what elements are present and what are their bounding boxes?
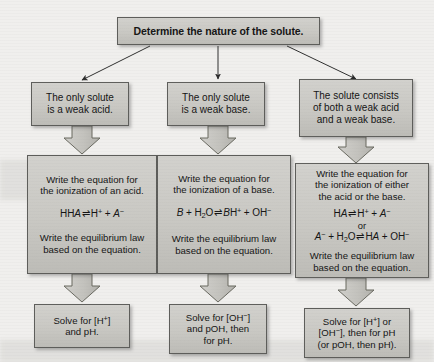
solve-both-line1-post: ] or — [377, 316, 391, 327]
block-arrow-col1-cond-to-proc — [64, 126, 100, 154]
eq-both2-arrow: ⇌ — [355, 231, 365, 242]
procedure-both-equation1: HA⇌H+ + A− — [299, 208, 425, 220]
solve-acid-line2: and pH. — [38, 326, 126, 337]
condition-both-line2: of both a weak acid — [303, 102, 409, 114]
condition-box-weak-base[interactable]: The only solute is a weak base. — [167, 82, 265, 126]
procedure-base-line2: the ionization of a base. — [161, 184, 287, 195]
solve-acid-line1-pre: Solve for [H — [53, 315, 103, 326]
solve-both-line2-post: ], then for pH — [340, 327, 395, 338]
condition-both-line1: The solute consists — [303, 90, 409, 102]
spacer — [31, 197, 153, 208]
eq-acid-arrow: ⇌ — [81, 208, 91, 219]
procedure-both-line4: Write the equilibrium law — [299, 250, 425, 261]
block-arrow-col2-cond-to-proc — [200, 126, 236, 154]
procedure-acid-equation: HHAHA⇌H+ + A− — [31, 208, 153, 220]
procedure-both-line1: Write the equation for — [299, 168, 425, 179]
title-box[interactable]: Determine the nature of the solute. — [117, 17, 320, 45]
condition-box-weak-acid[interactable]: The only solute is a weak acid. — [31, 82, 129, 126]
solve-both-line1: Solve for [H+] or — [308, 316, 406, 327]
block-arrow-col3-proc-to-solve — [338, 278, 374, 306]
scan-artifact-left — [0, 160, 30, 200]
solve-box-base[interactable]: Solve for [OH−] and pOH, then for pH. — [169, 304, 267, 354]
condition-base-line1: The only solute — [171, 92, 261, 104]
procedure-both-line2: the ionization of either — [299, 179, 425, 190]
solve-acid-line1-post: ] — [108, 315, 111, 326]
procedure-box-acid[interactable]: Write the equation for the ionization of… — [27, 155, 157, 274]
solve-box-acid[interactable]: Solve for [H+] and pH. — [34, 304, 130, 348]
eq-acid-products: H+ + A− — [91, 208, 124, 219]
eq-base-arrow: ⇌ — [213, 207, 223, 218]
procedure-box-both[interactable]: Write the equation for the ionization of… — [295, 163, 429, 278]
title-box-text: Determine the nature of the solute. — [118, 25, 319, 37]
eq-acid-ha: HHAHA — [60, 208, 81, 219]
eq-base-b: B — [177, 207, 184, 218]
procedure-acid-line1: Write the equation for — [31, 174, 153, 185]
solve-both-line2: [OH−], then for pH — [308, 327, 406, 338]
solve-base-line2: and pOH, then — [173, 323, 263, 334]
procedure-base-line1: Write the equation for — [161, 173, 287, 184]
procedure-both-line5: based on the equation. — [299, 262, 425, 273]
spacer — [31, 219, 153, 232]
procedure-base-equation: B + H2O⇌BH+ + OH− — [161, 207, 287, 221]
condition-base-line2: is a weak base. — [171, 104, 261, 116]
spacer — [161, 220, 287, 233]
eq-both1-arrow: ⇌ — [347, 208, 357, 219]
condition-box-both[interactable]: The solute consists of both a weak acid … — [299, 79, 413, 137]
procedure-both-equation2: A− + H2O⇌HA + OH− — [299, 231, 425, 245]
block-arrow-col1-proc-to-solve — [64, 274, 100, 302]
solve-both-line1-pre: Solve for [H — [323, 316, 373, 327]
condition-both-line3: and a weak base. — [303, 114, 409, 126]
block-arrow-col3-cond-to-proc — [338, 137, 374, 163]
solve-both-line3: (or pOH, then pH). — [308, 339, 406, 350]
procedure-box-base[interactable]: Write the equation for the ionization of… — [157, 155, 291, 274]
solve-base-line3: for pH. — [173, 335, 263, 346]
solve-both-line2-pre: [OH — [319, 327, 336, 338]
procedure-acid-line4: based on the equation. — [31, 244, 153, 255]
procedure-base-line4: based on the equation. — [161, 245, 287, 256]
procedure-acid-line3: Write the equilibrium law — [31, 232, 153, 243]
procedure-base-line3: Write the equilibrium law — [161, 233, 287, 244]
solve-box-both[interactable]: Solve for [H+] or [OH−], then for pH (or… — [304, 308, 410, 358]
condition-acid-line1: The only solute — [35, 92, 125, 104]
procedure-acid-line2: the ionization of an acid. — [31, 185, 153, 196]
solve-acid-line1: Solve for [H+] — [38, 315, 126, 326]
block-arrow-col2-proc-to-solve — [200, 274, 236, 302]
condition-acid-line2: is a weak acid. — [35, 104, 125, 116]
procedure-both-line3: the acid or the base. — [299, 191, 425, 202]
solve-base-line1-post: ] — [248, 312, 251, 323]
solve-base-line1-pre: Solve for [OH — [186, 312, 244, 323]
title-branch-connectors — [82, 46, 356, 80]
solve-base-line1: Solve for [OH−] — [173, 312, 263, 323]
